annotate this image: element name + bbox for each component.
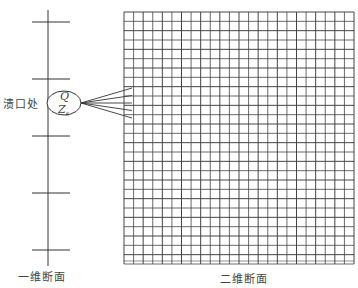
one-d-channel: [32, 10, 70, 266]
level-symbol-subscript: s: [66, 110, 70, 118]
level-symbol-main: Z: [57, 103, 66, 116]
breach-label: 溃口处: [3, 95, 39, 111]
one-d-section-label: 一维断面: [18, 268, 66, 284]
two-d-grid: [124, 12, 354, 264]
cross-section-group: [32, 22, 70, 250]
breach-node: Q Zs: [47, 90, 81, 118]
diagram-canvas: Q Zs: [0, 0, 358, 288]
flow-symbol: Q: [60, 90, 69, 103]
two-d-section-label: 二维断面: [220, 270, 268, 286]
coupling-diagram: Q Zs 溃口处 一维断面 二维断面: [0, 0, 358, 288]
